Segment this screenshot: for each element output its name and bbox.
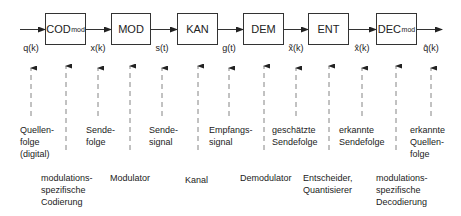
signal-label-x: x(k): [91, 43, 106, 53]
signal-label-xtilde: x̃(k): [289, 43, 304, 53]
block-desc-ent: Entscheider, Quantisierer: [303, 172, 353, 196]
block-desc-cod: modulations- spezifische Codierung: [41, 172, 93, 208]
block-cod-label: COD: [46, 23, 70, 35]
block-ent-label: ENT: [318, 23, 340, 35]
signal-desc-xtilde: geschätzte Sendefolge: [272, 124, 318, 148]
block-cod-sub: mod: [71, 26, 85, 33]
block-mod: MOD: [111, 13, 151, 45]
signal-label-qhat: q̂(k): [423, 43, 439, 53]
signal-label-q: q(k): [23, 43, 39, 53]
block-dec-sub: mod: [402, 26, 416, 33]
block-ent: ENT: [308, 13, 349, 45]
signal-label-xhat: x̂(k): [355, 43, 370, 53]
block-dem: DEM: [243, 13, 284, 45]
block-desc-kan: Kanal: [185, 174, 208, 186]
signal-desc-q: Quellen- folge (digital): [20, 124, 54, 160]
signal-desc-x: Sende- folge: [86, 124, 115, 148]
block-desc-mod: Modulator: [110, 172, 150, 184]
signal-label-g: g(t): [222, 43, 236, 53]
block-mod-label: MOD: [118, 23, 144, 35]
signal-desc-s: Sende- signal: [149, 124, 178, 148]
signal-label-s: s(t): [156, 43, 169, 53]
block-desc-dec: modulations- spezifische Decodierung: [376, 172, 428, 208]
block-kan: KAN: [177, 13, 218, 45]
block-cod: CODmod: [45, 13, 86, 45]
block-desc-dem: Demodulator: [240, 172, 292, 184]
block-kan-label: KAN: [186, 23, 209, 35]
block-dec-label: DEC: [378, 23, 401, 35]
signal-desc-xhat: erkannte Sendefolge: [339, 124, 385, 148]
block-dem-label: DEM: [251, 23, 275, 35]
block-dec: DECmod: [376, 13, 417, 45]
signal-desc-g: Empfangs- signal: [209, 124, 253, 148]
signal-desc-qhat: erkannte Quellen- folge: [410, 124, 445, 160]
